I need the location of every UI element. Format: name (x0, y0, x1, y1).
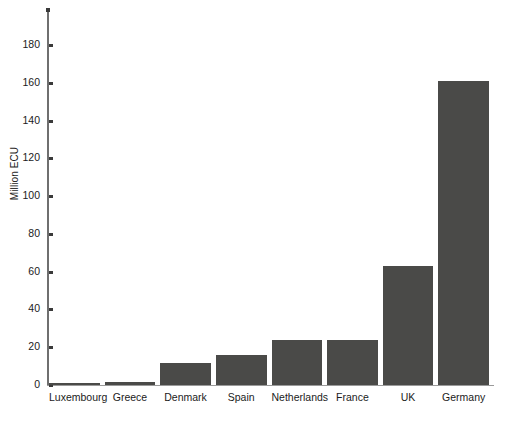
y-axis-title: Million ECU (9, 124, 20, 224)
bar (160, 363, 211, 385)
bar (216, 355, 267, 385)
y-tick-label: 20 (28, 340, 40, 352)
bar (272, 340, 323, 385)
bar-slot (216, 8, 267, 385)
x-axis-label: Netherlands (272, 391, 323, 403)
bar (105, 382, 156, 385)
bar-series (49, 8, 494, 385)
y-tick-label: 180 (22, 38, 40, 50)
bar-slot (327, 8, 378, 385)
x-axis-label: Luxembourg (49, 391, 100, 403)
x-axis-label: Greece (105, 391, 156, 403)
bar-slot (160, 8, 211, 385)
bar-slot (438, 8, 489, 385)
plot-area: 020406080100120140160180 (47, 8, 494, 385)
bar (327, 340, 378, 385)
x-axis-line (47, 385, 494, 386)
y-tick-label: 100 (22, 189, 40, 201)
bar (49, 383, 100, 385)
x-axis-label: France (327, 391, 378, 403)
bar-slot (272, 8, 323, 385)
x-axis-labels: LuxembourgGreeceDenmarkSpainNetherlandsF… (47, 391, 496, 411)
bar (438, 81, 489, 385)
y-tick-label: 160 (22, 76, 40, 88)
y-tick-label: 140 (22, 114, 40, 126)
bar-chart: Million ECU 020406080100120140160180 Lux… (0, 0, 507, 421)
y-tick-label: 80 (28, 227, 40, 239)
x-axis-label: Germany (438, 391, 489, 403)
y-tick-label: 60 (28, 265, 40, 277)
bar-slot (383, 8, 434, 385)
bar (383, 266, 434, 385)
y-tick-label: 40 (28, 302, 40, 314)
bar-slot (49, 8, 100, 385)
x-axis-label: UK (383, 391, 434, 403)
bar-slot (105, 8, 156, 385)
y-tick-label: 0 (34, 378, 40, 390)
y-tick-label: 120 (22, 151, 40, 163)
x-axis-label: Denmark (160, 391, 211, 403)
x-axis-label: Spain (216, 391, 267, 403)
